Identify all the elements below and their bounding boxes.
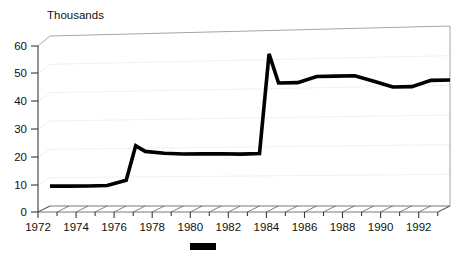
x-tick-label-1984: 1984 [254, 221, 280, 233]
chart-container: 60 50 40 30 20 10 0 Thousands [0, 0, 469, 254]
chart-legend [190, 243, 216, 250]
x-tick-label-1976: 1976 [101, 221, 127, 233]
y-tick-label-40: 40 [14, 95, 27, 107]
x-tick-label-1982: 1982 [216, 221, 242, 233]
legend-swatch-series-0 [190, 243, 216, 250]
x-tick-label-1986: 1986 [292, 221, 318, 233]
x-axis-ticks [38, 212, 438, 218]
floor-fill [38, 206, 450, 212]
y-tick-label-60: 60 [14, 40, 27, 52]
x-tick-label-1972: 1972 [25, 221, 51, 233]
y-tick-label-30: 30 [14, 123, 27, 135]
left-depth-fill [38, 36, 50, 212]
y-tick-label-10: 10 [14, 179, 27, 191]
y-tick-label-0: 0 [21, 206, 27, 218]
y-axis [31, 46, 38, 212]
line-chart: 60 50 40 30 20 10 0 Thousands [0, 0, 469, 254]
x-tick-labels: 1972 1974 1976 1978 1980 1982 1984 1986 … [25, 221, 431, 233]
x-tick-label-1988: 1988 [330, 221, 356, 233]
chart-unit-label: Thousands [47, 9, 104, 21]
back-wall-fill [50, 26, 450, 206]
x-tick-label-1978: 1978 [139, 221, 165, 233]
y-tick-label-50: 50 [14, 67, 27, 79]
plot-back-wall [50, 26, 450, 206]
x-tick-label-1992: 1992 [406, 221, 432, 233]
x-tick-label-1974: 1974 [63, 221, 89, 233]
x-tick-label-1990: 1990 [368, 221, 394, 233]
y-tick-label-20: 20 [14, 151, 27, 163]
plot-floor-3d [38, 206, 450, 212]
y-tick-labels: 60 50 40 30 20 10 0 [14, 40, 27, 218]
x-tick-label-1980: 1980 [178, 221, 204, 233]
plot-left-depth-panel [38, 36, 50, 212]
